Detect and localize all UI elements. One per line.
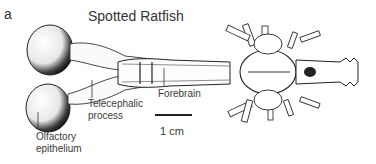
- telecephalic-label-1: Telecephalic: [88, 98, 143, 110]
- olfactory-bulb-top: [27, 25, 73, 75]
- telecephalic-label-2: process: [88, 110, 123, 122]
- lobe-bottom: [254, 90, 282, 110]
- forebrain-tube: [118, 59, 230, 88]
- olfactory-label-2: epithelium: [36, 143, 82, 155]
- olfactory-bulb-bottom: [26, 84, 70, 132]
- fourth-ventricle: [304, 67, 316, 77]
- forebrain-label: Forebrain: [158, 88, 201, 100]
- olfactory-label-1: Olfactory: [36, 131, 76, 143]
- scale-bar-label: 1 cm: [160, 125, 184, 137]
- lobe-top: [254, 34, 282, 54]
